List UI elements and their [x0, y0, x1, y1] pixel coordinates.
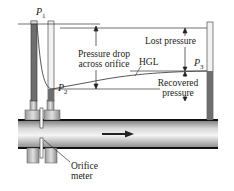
p1-label: P1	[36, 7, 46, 21]
recovered-pressure-label: Recovered pressure	[148, 78, 208, 98]
p3-label: P3	[194, 58, 204, 72]
orifice-meter-label: Orifice meter	[71, 161, 98, 181]
pressure-drop-label: Pressure drop across orifice	[68, 49, 140, 69]
p2-label: P2	[58, 83, 68, 97]
hgl-label: HGL	[139, 57, 159, 67]
piezometer-tube-p3	[207, 22, 213, 120]
piezometer-tube-p1	[31, 21, 37, 101]
lost-pressure-arrow-icon	[183, 28, 187, 71]
lost-pressure-label: Lost pressure	[145, 36, 196, 46]
